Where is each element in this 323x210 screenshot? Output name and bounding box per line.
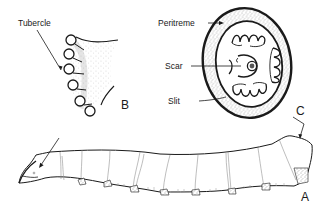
callout-scar: Scar [165, 62, 182, 71]
proleg-drawing [37, 30, 118, 116]
diagram-artwork [0, 0, 323, 210]
callout-tubercle: Tubercle [18, 19, 51, 28]
panel-label-c: C [296, 105, 305, 117]
diagram-stage: Tubercle B Peritreme Scar Slit C A [0, 0, 323, 210]
callout-slit: Slit [168, 97, 180, 106]
larva-drawing [19, 117, 312, 195]
spiracle-drawing [191, 2, 298, 123]
panel-label-b: B [121, 99, 129, 111]
panel-label-a: A [301, 191, 309, 203]
callout-peritreme: Peritreme [158, 19, 195, 28]
